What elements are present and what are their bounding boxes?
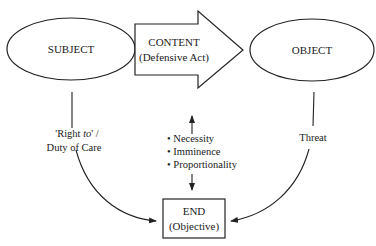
edge-object-to-end: Threat bbox=[231, 92, 327, 221]
end-label: END bbox=[183, 205, 206, 217]
end-node: END (Objective) bbox=[163, 199, 225, 238]
edge-content-end: • Necessity • Imminence • Proportionalit… bbox=[167, 116, 238, 190]
subject-edge-curve bbox=[76, 150, 156, 221]
subject-label: SUBJECT bbox=[48, 43, 95, 55]
object-node: OBJECT bbox=[250, 19, 374, 81]
object-label: OBJECT bbox=[292, 44, 333, 56]
bullet-imminence: • Imminence bbox=[167, 146, 221, 157]
threat-label: Threat bbox=[299, 132, 326, 143]
duty-of-care-label: Duty of Care bbox=[47, 142, 102, 153]
content-node: CONTENT (Defensive Act) bbox=[135, 11, 243, 88]
bullet-proportionality: • Proportionality bbox=[167, 159, 238, 170]
content-label: CONTENT bbox=[148, 36, 200, 48]
bullet-necessity: • Necessity bbox=[167, 133, 215, 144]
object-edge-curve bbox=[231, 149, 309, 221]
content-block-arrow bbox=[135, 11, 243, 88]
object-edge-top-segment bbox=[313, 92, 314, 126]
content-sublabel: (Defensive Act) bbox=[139, 51, 209, 64]
edge-subject-to-end: 'Right to' / Duty of Care bbox=[47, 92, 156, 221]
right-to-label: 'Right to' / bbox=[55, 128, 99, 139]
end-sublabel: (Objective) bbox=[169, 220, 219, 233]
diagram-canvas: SUBJECT CONTENT (Defensive Act) OBJECT E… bbox=[0, 0, 376, 246]
subject-node: SUBJECT bbox=[7, 18, 135, 80]
